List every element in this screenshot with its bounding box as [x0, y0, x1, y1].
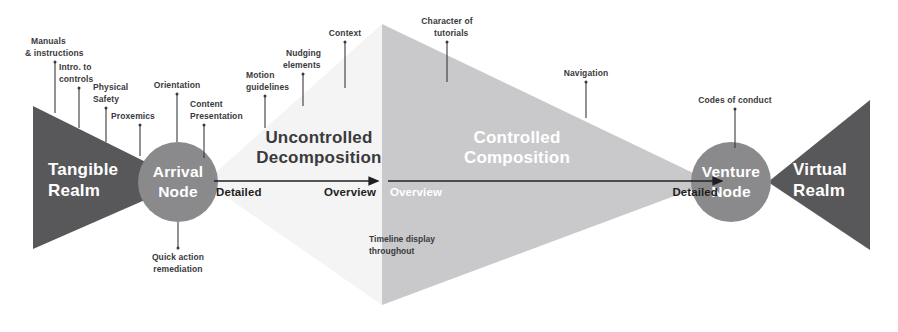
annotation-context-line1: Context: [329, 28, 361, 38]
annotation-intro-controls-line2: controls: [59, 74, 94, 84]
annotation-navigation-dot: [585, 81, 588, 84]
annotation-codes-of-conduct: Codes of conduct: [698, 95, 771, 148]
controlled-composition-label-line2: Composition: [464, 148, 570, 167]
annotation-navigation-line1: Navigation: [564, 68, 608, 78]
controlled-composition-label-line1: Controlled: [474, 128, 561, 147]
uncontrolled-decomposition-label: Uncontrolled Decomposition: [256, 128, 381, 167]
annotation-timeline-display-line1: Timeline display: [369, 234, 435, 244]
annotation-intro-controls: Intro. to controls: [59, 62, 94, 128]
uncontrolled-decomposition-label-line1: Uncontrolled: [265, 128, 372, 147]
annotation-physical-safety-dot: [105, 107, 108, 110]
controlled-composition-label: Controlled Composition: [464, 128, 570, 167]
annotation-nudging-elements-line1: Nudging: [286, 48, 321, 58]
arrival-node-label-line1: Arrival: [153, 163, 204, 180]
annotation-content-presentation-line1: Content: [190, 99, 223, 109]
annotation-motion-guidelines-line2: guidelines: [246, 82, 289, 92]
diagram-canvas: Tangible Realm Virtual Realm Arrival Nod…: [0, 0, 898, 332]
right-axis-start-label: Overview: [390, 186, 442, 198]
annotation-quick-action: Quick action remediation: [152, 222, 204, 274]
annotation-codes-of-conduct-line1: Codes of conduct: [698, 95, 771, 105]
annotation-context-dot: [344, 41, 347, 44]
annotation-quick-action-line2: remediation: [153, 264, 202, 274]
annotation-character-of-tutorials-line1: Character of: [421, 16, 472, 26]
right-axis-end-label: Detailed: [672, 186, 718, 198]
annotation-motion-guidelines-dot: [264, 95, 267, 98]
virtual-realm-label-line1: Virtual: [793, 160, 847, 179]
annotation-manuals-line1: Manuals: [31, 36, 66, 46]
annotation-character-of-tutorials-dot: [446, 41, 449, 44]
left-axis-end-label: Overview: [324, 186, 376, 198]
tangible-realm-label-line1: Tangible: [48, 160, 118, 179]
annotation-orientation-dot: [176, 93, 179, 96]
annotation-navigation: Navigation: [564, 68, 608, 118]
annotation-proxemics-dot: [139, 124, 142, 127]
virtual-realm-label-line2: Realm: [793, 181, 845, 200]
tangible-realm-label-line2: Realm: [48, 181, 100, 200]
annotation-content-presentation-dot: [203, 124, 206, 127]
annotation-intro-controls-line1: Intro. to: [59, 62, 92, 72]
annotation-physical-safety-line2: Safety: [93, 94, 119, 104]
uncontrolled-decomposition-label-line2: Decomposition: [256, 148, 381, 167]
annotation-manuals-dot: [54, 61, 57, 64]
annotation-intro-controls-dot: [78, 87, 81, 90]
annotation-nudging-elements-dot: [302, 73, 305, 76]
annotation-orientation-line1: Orientation: [154, 80, 200, 90]
annotation-codes-of-conduct-dot: [734, 108, 737, 111]
venture-node-label-line1: Venture: [702, 163, 760, 180]
annotation-nudging-elements-line2: elements: [283, 60, 321, 70]
annotation-content-presentation-line2: Presentation: [190, 111, 243, 121]
annotation-motion-guidelines-line1: Motion: [246, 70, 274, 80]
annotation-timeline-display-line2: throughout: [369, 246, 414, 256]
annotation-character-of-tutorials-line2: tutorials: [434, 28, 469, 38]
arrival-node-label-line2: Node: [158, 183, 198, 200]
annotation-physical-safety-line1: Physical: [93, 82, 128, 92]
annotation-quick-action-line1: Quick action: [152, 252, 204, 262]
annotation-proxemics-line1: Proxemics: [111, 111, 155, 121]
venture-node-circle[interactable]: [691, 142, 771, 222]
left-axis-start-label: Detailed: [216, 186, 262, 198]
realm-transition-diagram: Tangible Realm Virtual Realm Arrival Nod…: [0, 0, 898, 332]
arrival-node-circle[interactable]: [138, 142, 218, 222]
annotation-quick-action-dot: [177, 247, 180, 250]
annotation-manuals-line2: & instructions: [25, 48, 84, 58]
